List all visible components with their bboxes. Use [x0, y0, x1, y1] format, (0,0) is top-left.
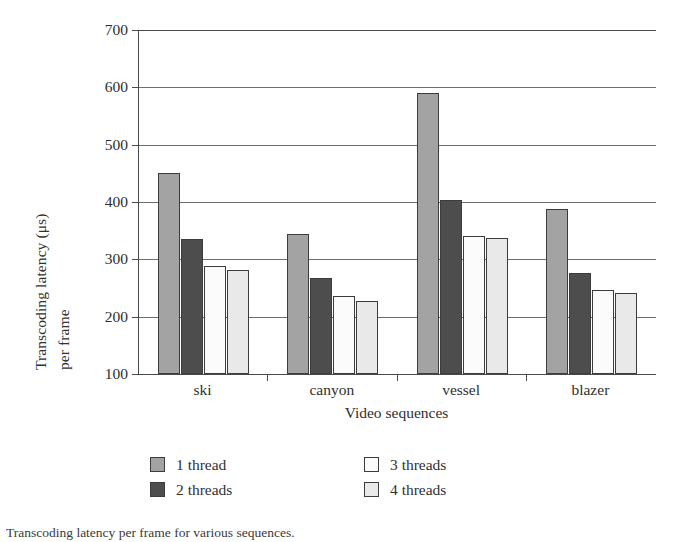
y-axis-tick-label: 600: [105, 78, 128, 96]
bar-canyon-1-thread: [287, 234, 309, 374]
x-axis-tick-label-canyon: canyon: [267, 381, 396, 401]
y-axis-tick-label: 400: [105, 193, 128, 211]
legend-label: 1 thread: [176, 456, 226, 474]
bar-vessel-2-threads: [440, 200, 462, 374]
legend: 1 thread3 threads2 threads4 threads: [150, 452, 550, 502]
bar-vessel-3-threads: [463, 236, 485, 374]
y-axis-tick: [132, 87, 139, 88]
legend-item-2-threads: 2 threads: [150, 481, 364, 499]
y-axis-tick: [132, 317, 139, 318]
y-axis-title-line2: per frame: [55, 309, 73, 370]
legend-item-1-thread: 1 thread: [150, 456, 364, 474]
legend-swatch-icon: [364, 482, 379, 497]
bar-canyon-3-threads: [333, 296, 355, 374]
y-axis-tick: [132, 145, 139, 146]
x-axis-title: Video sequences: [138, 404, 655, 422]
x-axis-tick-label-ski: ski: [138, 381, 267, 401]
bar-group-blazer: [527, 30, 656, 374]
y-axis-tick-label: 500: [105, 136, 128, 154]
legend-swatch-icon: [150, 482, 165, 497]
y-axis-tick: [132, 30, 139, 31]
bar-blazer-2-threads: [569, 273, 591, 374]
legend-label: 4 threads: [390, 481, 446, 499]
x-axis-tick: [267, 374, 268, 381]
bar-blazer-4-threads: [615, 293, 637, 374]
bar-blazer-3-threads: [592, 290, 614, 374]
bar-group-ski: [139, 30, 268, 374]
bar-group-vessel: [398, 30, 527, 374]
bar-vessel-4-threads: [486, 238, 508, 374]
y-axis-title: Transcoding latency (μs) per frame: [10, 30, 70, 375]
bar-groups: [139, 30, 656, 374]
y-axis-tick: [132, 374, 139, 375]
bar-canyon-2-threads: [310, 278, 332, 374]
y-axis-tick-label: 100: [105, 365, 128, 383]
x-axis-tick-label-vessel: vessel: [397, 381, 526, 401]
legend-label: 2 threads: [176, 481, 232, 499]
legend-item-4-threads: 4 threads: [364, 481, 564, 499]
y-axis-tick-label: 200: [105, 308, 128, 326]
legend-swatch-icon: [150, 457, 165, 472]
x-axis-tick-labels: skicanyonvesselblazer: [138, 381, 655, 401]
legend-item-3-threads: 3 threads: [364, 456, 564, 474]
y-axis-title-line1: Transcoding latency (μs): [32, 214, 50, 371]
bar-ski-1-thread: [158, 173, 180, 374]
bar-chart-figure: Transcoding latency (μs) per frame 10020…: [0, 0, 673, 542]
bar-ski-3-threads: [204, 266, 226, 374]
y-axis-tick: [132, 259, 139, 260]
y-axis-tick: [132, 202, 139, 203]
figure-caption: Transcoding latency per frame for variou…: [6, 525, 566, 542]
x-axis-tick-label-blazer: blazer: [526, 381, 655, 401]
y-axis-tick-label: 300: [105, 250, 128, 268]
plot-area: 100200300400500600700: [138, 30, 656, 375]
legend-label: 3 threads: [390, 456, 446, 474]
bar-canyon-4-threads: [356, 301, 378, 374]
bar-blazer-1-thread: [546, 209, 568, 374]
y-axis-tick-label: 700: [105, 21, 128, 39]
bar-group-canyon: [268, 30, 397, 374]
x-axis-tick: [397, 374, 398, 381]
bar-ski-2-threads: [181, 239, 203, 374]
bar-vessel-1-thread: [417, 93, 439, 374]
legend-swatch-icon: [364, 457, 379, 472]
x-axis-tick: [526, 374, 527, 381]
bar-ski-4-threads: [227, 270, 249, 374]
